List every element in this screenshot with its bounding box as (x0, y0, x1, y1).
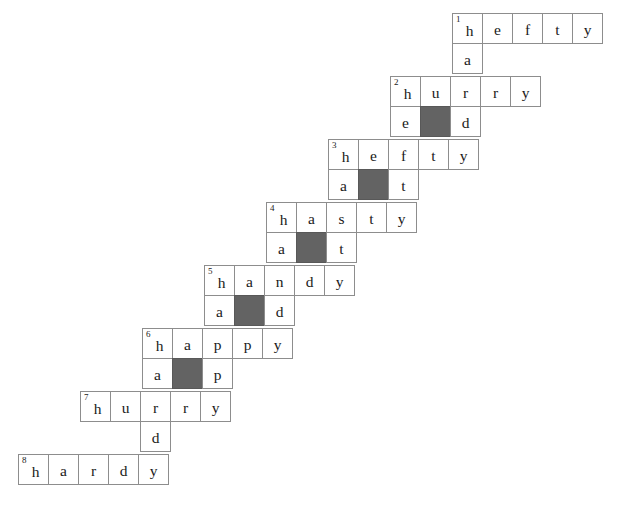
cell-letter: e (483, 14, 512, 43)
across-cell-3-1[interactable]: e (358, 139, 389, 170)
cell-letter: a (49, 455, 78, 484)
cell-letter: d (295, 266, 324, 295)
cell-letter: a (267, 233, 296, 262)
across-cell-5-4[interactable]: y (324, 265, 355, 296)
across-cell-4-4[interactable]: y (386, 202, 417, 233)
cell-letter: a (297, 203, 326, 232)
across-start-cell-5[interactable]: 5h (204, 265, 235, 296)
across-cell-2-4[interactable]: y (510, 76, 541, 107)
cell-letter: y (573, 14, 602, 43)
across-start-cell-3[interactable]: 3h (328, 139, 359, 170)
block-cell-4 (296, 232, 327, 263)
cell-letter: y (325, 266, 354, 295)
across-cell-8-3[interactable]: d (108, 454, 139, 485)
across-cell-8-4[interactable]: y (138, 454, 169, 485)
cell-letter: a (235, 266, 264, 295)
across-cell-2-1[interactable]: u (420, 76, 451, 107)
cell-letter: p (203, 329, 232, 358)
stem-cell-2-2[interactable]: d (450, 106, 481, 137)
cell-letter: d (109, 455, 138, 484)
cell-letter: a (205, 296, 234, 325)
cell-letter: a (453, 44, 482, 73)
cell-letter: p (203, 359, 232, 388)
stem-cell-7-2[interactable]: d (140, 421, 171, 452)
block-cell-2 (420, 106, 451, 137)
across-start-cell-8[interactable]: 8h (18, 454, 49, 485)
cell-letter: u (111, 392, 140, 421)
across-start-cell-4[interactable]: 4h (266, 202, 297, 233)
cell-letter: a (143, 359, 172, 388)
cell-letter: y (511, 77, 540, 106)
crossword-grid: 1heftya2hurryed3heftyat4hastyat5handyad6… (0, 0, 631, 514)
cell-letter: d (451, 107, 480, 136)
across-cell-3-3[interactable]: t (418, 139, 449, 170)
cell-letter: y (263, 329, 292, 358)
across-cell-7-1[interactable]: u (110, 391, 141, 422)
cell-letter: h (205, 266, 234, 295)
across-cell-4-1[interactable]: a (296, 202, 327, 233)
cell-letter: h (453, 14, 482, 43)
across-cell-6-2[interactable]: p (202, 328, 233, 359)
stem-cell-5-2[interactable]: d (264, 295, 295, 326)
stem-cell-6-0[interactable]: a (142, 358, 173, 389)
across-cell-5-3[interactable]: d (294, 265, 325, 296)
cell-letter: y (387, 203, 416, 232)
stem-cell-4-0[interactable]: a (266, 232, 297, 263)
across-cell-7-4[interactable]: y (200, 391, 231, 422)
across-cell-7-3[interactable]: r (170, 391, 201, 422)
cell-letter: a (173, 329, 202, 358)
cell-letter: h (329, 140, 358, 169)
cell-letter: r (79, 455, 108, 484)
across-cell-2-3[interactable]: r (480, 76, 511, 107)
across-cell-6-4[interactable]: y (262, 328, 293, 359)
across-cell-1-1[interactable]: e (482, 13, 513, 44)
across-cell-1-2[interactable]: f (512, 13, 543, 44)
cell-letter: r (451, 77, 480, 106)
across-start-cell-6[interactable]: 6h (142, 328, 173, 359)
across-cell-4-3[interactable]: t (356, 202, 387, 233)
stem-cell-3-2[interactable]: t (388, 169, 419, 200)
across-start-cell-7[interactable]: 7h (80, 391, 111, 422)
across-start-cell-2[interactable]: 2h (390, 76, 421, 107)
cell-letter: t (389, 170, 418, 199)
block-cell-6 (172, 358, 203, 389)
across-cell-2-2[interactable]: r (450, 76, 481, 107)
cell-letter: t (419, 140, 448, 169)
cell-letter: y (139, 455, 168, 484)
stem-cell-6-2[interactable]: p (202, 358, 233, 389)
across-cell-1-4[interactable]: y (572, 13, 603, 44)
block-cell-3 (358, 169, 389, 200)
across-cell-7-2[interactable]: r (140, 391, 171, 422)
cell-letter: d (141, 422, 170, 451)
stem-cell-4-2[interactable]: t (326, 232, 357, 263)
across-cell-3-4[interactable]: y (448, 139, 479, 170)
across-cell-3-2[interactable]: f (388, 139, 419, 170)
across-cell-5-2[interactable]: n (264, 265, 295, 296)
across-start-cell-1[interactable]: 1h (452, 13, 483, 44)
across-cell-1-3[interactable]: t (542, 13, 573, 44)
cell-letter: s (327, 203, 356, 232)
cell-letter: t (357, 203, 386, 232)
across-cell-5-1[interactable]: a (234, 265, 265, 296)
cell-letter: e (391, 107, 420, 136)
across-cell-8-2[interactable]: r (78, 454, 109, 485)
cell-letter: r (481, 77, 510, 106)
cell-letter: u (421, 77, 450, 106)
stem-cell-2-0[interactable]: e (390, 106, 421, 137)
across-cell-6-1[interactable]: a (172, 328, 203, 359)
stem-cell-1-0[interactable]: a (452, 43, 483, 74)
cell-letter: n (265, 266, 294, 295)
block-cell-5 (234, 295, 265, 326)
stem-cell-5-0[interactable]: a (204, 295, 235, 326)
cell-letter: h (391, 77, 420, 106)
across-cell-6-3[interactable]: p (232, 328, 263, 359)
cell-letter: t (543, 14, 572, 43)
stem-cell-3-0[interactable]: a (328, 169, 359, 200)
across-cell-8-1[interactable]: a (48, 454, 79, 485)
across-cell-4-2[interactable]: s (326, 202, 357, 233)
cell-letter: f (389, 140, 418, 169)
cell-letter: y (449, 140, 478, 169)
cell-letter: f (513, 14, 542, 43)
cell-letter: h (267, 203, 296, 232)
cell-letter: r (141, 392, 170, 421)
